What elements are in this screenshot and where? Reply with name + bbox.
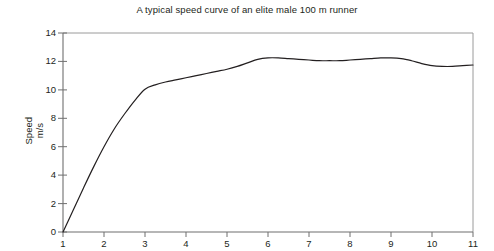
y-tick-label-14: 14 <box>32 28 56 38</box>
y-tick-label-0: 0 <box>32 227 56 237</box>
x-tick-label-5: 5 <box>215 239 239 249</box>
y-tick-label-2: 2 <box>32 199 56 209</box>
x-tick-label-3: 3 <box>133 239 157 249</box>
speed-curve-chart: A typical speed curve of an elite male 1… <box>0 0 494 251</box>
x-tick-label-1: 1 <box>51 239 75 249</box>
x-tick-label-9: 9 <box>379 239 403 249</box>
y-tick-label-8: 8 <box>32 113 56 123</box>
x-tick-label-10: 10 <box>420 239 444 249</box>
y-tick-label-4: 4 <box>32 170 56 180</box>
y-tick-label-12: 12 <box>32 56 56 66</box>
plot-background <box>63 33 473 232</box>
x-tick-label-11: 11 <box>461 239 485 249</box>
y-tick-label-10: 10 <box>32 85 56 95</box>
x-tick-label-6: 6 <box>256 239 280 249</box>
x-tick-label-4: 4 <box>174 239 198 249</box>
x-tick-label-8: 8 <box>338 239 362 249</box>
x-tick-label-2: 2 <box>92 239 116 249</box>
x-axis-ticks <box>63 232 473 237</box>
y-tick-label-6: 6 <box>32 142 56 152</box>
plot-area <box>0 0 494 251</box>
x-tick-label-7: 7 <box>297 239 321 249</box>
